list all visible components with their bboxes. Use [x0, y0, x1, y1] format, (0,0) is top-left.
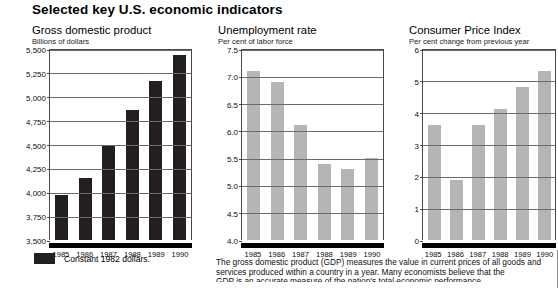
gridline [50, 193, 191, 194]
y-axis-tick-label: 7.5 [227, 46, 238, 55]
y-axis-tick-label: 6.5 [227, 100, 238, 109]
bar [341, 169, 354, 240]
y-axis-tick [47, 145, 50, 146]
gridline [423, 145, 555, 146]
gridline [423, 113, 555, 114]
gridline [50, 121, 191, 122]
infographic-page: Selected key U.S. economic indicators Gr… [0, 0, 558, 288]
chart-subtitle-cpi: Per cent change from previous year [409, 37, 558, 46]
chart-title-cpi: Consumer Price Index [409, 24, 558, 36]
gridline [242, 186, 383, 187]
y-axis-tick-label: 5,250 [26, 69, 46, 78]
y-axis-tick [420, 177, 423, 178]
gridline [242, 104, 383, 105]
bar [247, 71, 260, 240]
y-axis-tick-label: 3,750 [26, 213, 46, 222]
chart-subtitle-gdp: Billions of dollars [32, 37, 192, 46]
y-axis-tick-label: 5,000 [26, 93, 46, 102]
y-axis-tick-label: 5.5 [227, 155, 238, 164]
y-axis-tick [420, 241, 423, 242]
chart-title-unemployment: Unemployment rate [218, 24, 384, 36]
y-axis-tick-label: 3 [415, 141, 419, 150]
gridline [242, 77, 383, 78]
bar [494, 109, 507, 240]
y-axis-tick [420, 50, 423, 51]
gridline [423, 50, 555, 51]
y-axis-tick [47, 97, 50, 98]
y-axis-tick-label: 4,000 [26, 189, 46, 198]
footnote-line-1: The gross domestic product (GDP) measure… [216, 257, 525, 267]
y-axis-tick-label: 5,500 [26, 46, 46, 55]
gridline [242, 50, 383, 51]
y-axis-tick [47, 121, 50, 122]
gridline [50, 50, 191, 51]
baseline-cpi [422, 243, 556, 248]
y-axis-tick-label: 6 [415, 46, 419, 55]
y-axis-tick [47, 50, 50, 51]
y-axis-tick [47, 169, 50, 170]
y-axis-tick [420, 145, 423, 146]
gridline [50, 145, 191, 146]
plot-wrap-unemployment: 4.04.55.05.56.06.57.07.5 198519861987198… [218, 49, 384, 240]
bar [538, 71, 551, 240]
chart-panel-unemployment: Unemployment rate Per cent of labor forc… [218, 24, 384, 240]
baseline-unemployment [241, 243, 384, 248]
legend-label: Constant 1982 dollars. [64, 254, 150, 264]
gridline [242, 213, 383, 214]
y-axis-tick-label: 2 [415, 173, 419, 182]
y-axis-tick [47, 193, 50, 194]
bar [126, 110, 139, 240]
bar [428, 125, 441, 240]
chart-panel-gdp: Gross domestic product Billions of dolla… [32, 24, 192, 240]
y-axis-tick [420, 209, 423, 210]
footnote-line-3: GDP is an accurate measure of the nation… [216, 277, 556, 282]
y-axis-tick-label: 7.0 [227, 73, 238, 82]
y-axis-tick [239, 104, 242, 105]
y-axis-tick-label: 6.0 [227, 127, 238, 136]
bar [516, 87, 529, 240]
y-axis-tick-label: 4.5 [227, 209, 238, 218]
y-axis-tick [239, 213, 242, 214]
y-axis-tick-label: 5 [415, 77, 419, 86]
legend: Constant 1982 dollars. [34, 253, 150, 264]
y-axis-tick [239, 159, 242, 160]
y-axis-tick [47, 73, 50, 74]
chart-panel-cpi: Consumer Price Index Per cent change fro… [409, 24, 558, 240]
y-axis-tick-label: 4 [415, 109, 419, 118]
baseline-gdp [49, 243, 192, 248]
y-axis-tick [47, 241, 50, 242]
footnote-text: The gross domestic product (GDP) measure… [216, 258, 556, 282]
gridline [50, 73, 191, 74]
y-axis-tick [239, 131, 242, 132]
gridline [50, 169, 191, 170]
y-axis-tick [47, 217, 50, 218]
page-title: Selected key U.S. economic indicators [32, 2, 283, 17]
bar [472, 125, 485, 240]
y-axis-tick-label: 4,500 [26, 141, 46, 150]
bar [450, 180, 463, 240]
x-axis-tick-label: 1990 [169, 250, 191, 259]
y-axis-tick-label: 4,250 [26, 165, 46, 174]
gridline [423, 81, 555, 82]
bar [294, 125, 307, 240]
gridline [242, 159, 383, 160]
y-axis-tick [239, 241, 242, 242]
y-axis-tick-label: 1 [415, 205, 419, 214]
plot-area-unemployment: 4.04.55.05.56.06.57.07.5 [241, 49, 384, 240]
gridline [423, 209, 555, 210]
plot-wrap-cpi: 0123456 198519861987198819891990 [409, 49, 558, 240]
plot-area-gdp: 3,5003,7504,0004,2504,5004,7505,0005,250… [49, 49, 192, 240]
bar [173, 55, 186, 240]
y-axis-tick [239, 186, 242, 187]
bar [365, 158, 378, 240]
y-axis-tick [239, 77, 242, 78]
bar [79, 178, 92, 240]
chart-subtitle-unemployment: Per cent of labor force [218, 37, 384, 46]
plot-area-cpi: 0123456 [422, 49, 556, 240]
y-axis-tick [420, 81, 423, 82]
gridline [50, 217, 191, 218]
y-axis-tick-label: 0 [415, 237, 419, 246]
y-axis-tick-label: 4.0 [227, 237, 238, 246]
legend-swatch-constant-dollars [34, 253, 55, 264]
y-axis-tick-label: 4,750 [26, 117, 46, 126]
